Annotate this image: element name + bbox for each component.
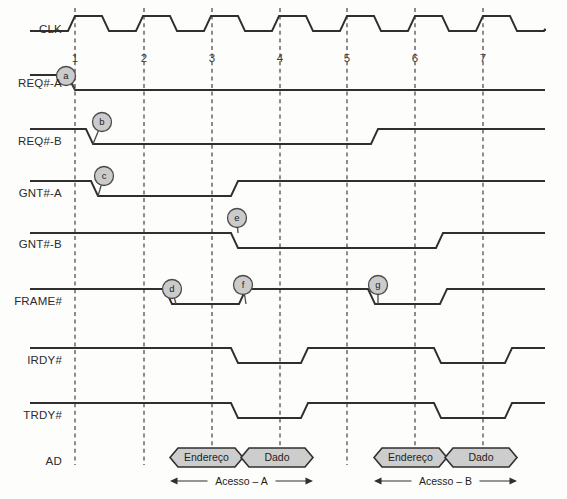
waveform-gnt-b — [30, 233, 545, 248]
cycle-number-6: 6 — [412, 52, 418, 64]
span-arrow-left-0 — [170, 477, 178, 484]
ad-packet-label-0: Endereço — [184, 451, 229, 463]
signal-label-req-b: REQ#-B — [18, 135, 62, 147]
signal-label-gnt-a: GNT#-A — [19, 187, 62, 199]
signal-label-gnt-b: GNT#-B — [19, 238, 62, 250]
signal-label-req-a: REQ#-A — [18, 77, 62, 89]
span-arrow-right-0 — [306, 477, 314, 484]
signal-label-frame: FRAME# — [14, 295, 62, 307]
ad-bus-packets: EndereçoDadoEndereçoDado — [170, 448, 517, 467]
waveform-req-b — [30, 129, 545, 144]
signal-label-irdy: IRDY# — [27, 354, 62, 366]
access-span-markers: Acesso – AAcesso – B — [170, 475, 517, 487]
signal-label-ad: AD — [46, 455, 62, 467]
signal-label-trdy: TRDY# — [23, 409, 62, 421]
timing-diagram-canvas: 1234567 EndereçoDadoEndereçoDado Acesso … — [0, 0, 567, 499]
clock-waveform — [30, 16, 545, 31]
annotation-label-d: d — [169, 283, 174, 294]
annotation-label-b: b — [99, 116, 104, 127]
signal-name-labels: CLKREQ#-AREQ#-BGNT#-AGNT#-BFRAME#IRDY#TR… — [14, 23, 62, 467]
annotation-label-c: c — [102, 170, 107, 181]
waveform-trdy — [30, 403, 545, 418]
cycle-gridlines — [75, 8, 483, 465]
annotation-label-g: g — [375, 279, 380, 290]
ad-packet-label-3: Dado — [468, 451, 493, 463]
cycle-number-1: 1 — [72, 52, 78, 64]
cycle-number-labels: 1234567 — [72, 52, 486, 64]
annotation-label-a: a — [63, 70, 69, 81]
timing-diagram: 1234567 EndereçoDadoEndereçoDado Acesso … — [0, 0, 567, 499]
waveform-frame — [30, 289, 545, 304]
cycle-number-7: 7 — [480, 52, 486, 64]
span-arrow-right-1 — [510, 477, 518, 484]
cycle-number-2: 2 — [141, 52, 147, 64]
cycle-number-4: 4 — [277, 52, 284, 64]
signal-label-clk: CLK — [39, 23, 62, 35]
annotation-bubbles: abcedfg — [57, 67, 388, 305]
span-label-1: Acesso – B — [419, 475, 472, 487]
waveform-irdy — [30, 348, 545, 363]
span-label-0: Acesso – A — [215, 475, 268, 487]
cycle-number-3: 3 — [209, 52, 215, 64]
span-arrow-left-1 — [374, 477, 382, 484]
annotation-label-f: f — [242, 279, 245, 290]
cycle-number-5: 5 — [344, 52, 350, 64]
ad-packet-label-2: Endereço — [388, 451, 433, 463]
ad-packet-label-1: Dado — [264, 451, 289, 463]
clock-waveform-path — [30, 16, 545, 31]
annotation-label-e: e — [234, 212, 239, 223]
waveform-req-a — [30, 75, 545, 90]
